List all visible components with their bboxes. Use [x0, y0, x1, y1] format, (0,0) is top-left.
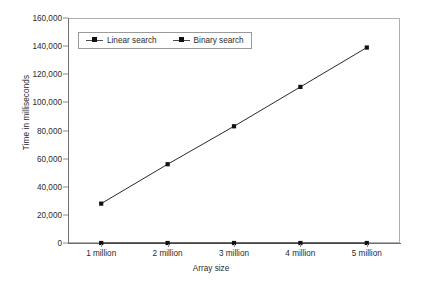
y-axis-tick-label: 100,000 — [18, 98, 62, 107]
y-axis-tick-label: 20,000 — [18, 210, 62, 219]
x-axis-tick-label: 5 million — [329, 249, 405, 258]
series-data-point — [365, 45, 369, 49]
x-axis-title: Array size — [0, 264, 422, 273]
x-axis-tick-mark — [367, 244, 368, 247]
series-data-point — [99, 202, 103, 206]
series-data-point — [232, 124, 236, 128]
y-axis-tick-label: 60,000 — [18, 154, 62, 163]
x-axis-tick-label: 1 million — [63, 249, 139, 258]
y-axis-tick-label: 80,000 — [18, 126, 62, 135]
y-axis-tick-label-group: 020,00040,00060,00080,000100,000120,0001… — [18, 18, 62, 243]
x-axis-tick-mark — [168, 244, 169, 247]
chart-legend: Linear searchBinary search — [78, 32, 252, 49]
legend-label: Binary search — [194, 36, 244, 45]
x-axis-tick-label: 4 million — [262, 249, 338, 258]
legend-entry[interactable]: Linear search — [86, 36, 157, 45]
series-data-point — [166, 162, 170, 166]
legend-label: Linear search — [107, 36, 157, 45]
y-axis-tick-label: 140,000 — [18, 42, 62, 51]
x-axis-tick-mark — [101, 244, 102, 247]
legend-marker-icon — [86, 36, 103, 45]
y-axis-tick-label: 120,000 — [18, 70, 62, 79]
y-axis-tick-label: 0 — [18, 239, 62, 248]
x-axis-tick-label: 2 million — [130, 249, 206, 258]
x-axis-tick-label: 3 million — [196, 249, 272, 258]
series-data-point — [298, 85, 302, 89]
x-axis-tick-mark — [234, 244, 235, 247]
y-axis-tick-label: 160,000 — [18, 14, 62, 23]
x-axis-tick-mark — [300, 244, 301, 247]
legend-marker-icon — [173, 36, 190, 45]
chart-container: Time in milliseconds 020,00040,00060,000… — [0, 0, 422, 284]
y-axis-tick-label: 40,000 — [18, 182, 62, 191]
series-layer — [68, 18, 400, 243]
legend-entry[interactable]: Binary search — [173, 36, 244, 45]
